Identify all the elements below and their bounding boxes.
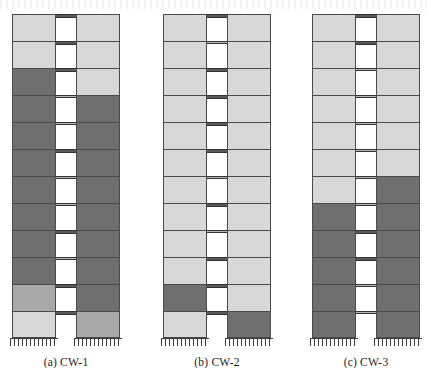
figure-canvas: (a) CW-1(b) CW-2(c) CW-3 [0,0,427,368]
story-row [12,311,120,338]
coupling-beam [56,230,76,234]
coupling-bay [56,311,76,338]
coupling-bay [356,230,376,257]
coupling-beam [207,41,227,44]
left-pier-panel [163,284,207,311]
right-pier-panel [76,95,120,122]
right-pier-panel [227,14,271,41]
coupling-bay [356,95,376,122]
story-row [312,149,420,176]
coupling-bay [56,14,76,41]
left-pier-panel [12,284,56,311]
fixed-base-support [163,338,271,345]
story-row [12,122,120,149]
right-pier-panel [227,311,271,338]
story-row [12,95,120,122]
story-row [12,14,120,41]
story-row [312,284,420,311]
coupling-beam [56,311,76,315]
wall-caption-cw-3: (c) CW-3 [312,356,420,368]
coupling-bay [56,41,76,68]
left-pier-panel [312,311,356,338]
coupling-bay [207,95,227,122]
left-pier-panel [12,203,56,230]
coupling-beam [356,257,376,261]
right-pier-panel [376,230,420,257]
right-pier-panel [227,68,271,95]
right-pier-panel [376,41,420,68]
wall-elevation-cw-1: (a) CW-1 [12,14,120,338]
base-hatch-right [374,338,422,346]
left-pier-panel [312,176,356,203]
coupling-bay [356,257,376,284]
right-pier-panel [227,203,271,230]
story-row [312,68,420,95]
coupling-bay [207,284,227,311]
left-pier-panel [163,176,207,203]
coupling-bay [356,176,376,203]
right-pier-panel [76,149,120,176]
coupling-bay [56,122,76,149]
left-pier-panel [12,122,56,149]
story-row [12,176,120,203]
coupling-bay [56,176,76,203]
story-row [312,311,420,338]
story-row [312,230,420,257]
left-pier-panel [163,95,207,122]
coupling-bay [356,68,376,95]
story-row [312,176,420,203]
left-pier-panel [163,203,207,230]
coupling-beam [56,149,76,153]
story-row [163,149,271,176]
story-row [312,41,420,68]
coupling-beam [207,284,227,288]
coupling-bay [56,230,76,257]
left-pier-panel [312,149,356,176]
right-pier-panel [376,257,420,284]
coupling-beam [56,95,76,98]
coupling-bay [207,122,227,149]
base-hatch-left [161,338,209,346]
coupling-beam [207,122,227,126]
story-row [163,41,271,68]
story-row [12,149,120,176]
page-text-artifact [0,0,427,9]
coupling-bay [207,14,227,41]
story-row [163,176,271,203]
coupling-beam [56,284,76,288]
coupling-beam [356,230,376,234]
base-hatch-right [225,338,273,346]
coupling-beam [356,95,376,98]
wall-frame-cw-3 [312,14,420,338]
left-pier-panel [312,41,356,68]
story-row [312,122,420,149]
wall-caption-cw-1: (a) CW-1 [12,356,120,368]
coupling-beam [207,230,227,233]
right-pier-panel [227,95,271,122]
right-pier-panel [376,122,420,149]
left-pier-panel [163,122,207,149]
story-row [163,95,271,122]
coupling-beam [207,176,227,179]
coupling-bay [207,176,227,203]
left-pier-panel [12,176,56,203]
coupling-bay [207,311,227,338]
left-pier-panel [163,230,207,257]
right-pier-panel [227,230,271,257]
coupling-beam [207,257,227,261]
story-row [12,284,120,311]
right-pier-panel [376,176,420,203]
wall-frame-cw-1 [12,14,120,338]
story-row [12,257,120,284]
coupling-beam [207,14,227,18]
right-pier-panel [76,284,120,311]
story-row [163,122,271,149]
right-pier-panel [76,68,120,95]
coupling-bay [356,311,376,338]
right-pier-panel [376,95,420,122]
right-pier-panel [76,311,120,338]
coupling-beam [356,14,376,18]
coupling-beam [207,203,227,207]
coupling-beam [56,257,76,260]
coupling-beam [356,311,376,314]
